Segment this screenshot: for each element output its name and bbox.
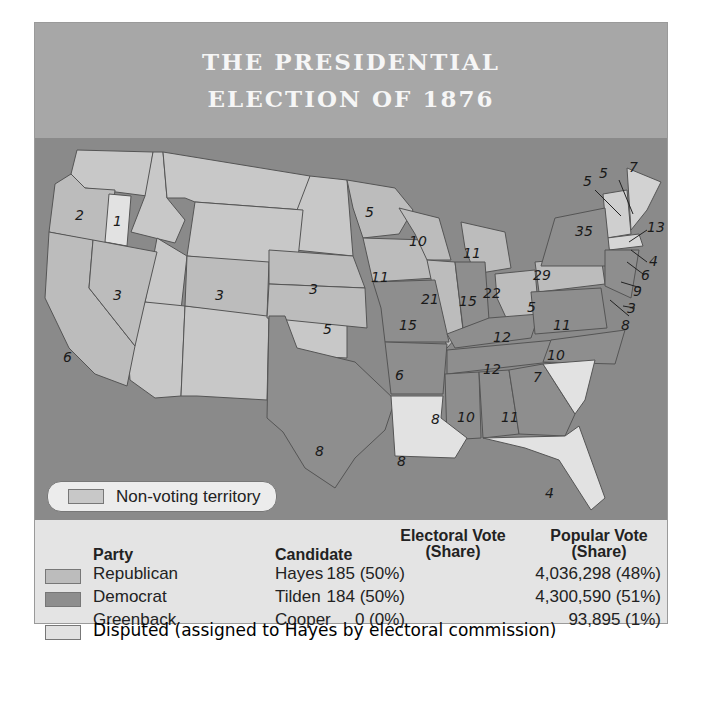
election-map-figure: THE PRESIDENTIAL ELECTION OF 1876 (34, 22, 668, 624)
non-voting-swatch (68, 489, 104, 504)
title-line-1: THE PRESIDENTIAL (35, 43, 667, 80)
svg-text:3: 3 (113, 287, 122, 303)
svg-text:12: 12 (483, 361, 501, 377)
header-pv-line2: (Share) (533, 544, 665, 560)
disputed-swatch (45, 625, 81, 640)
svg-text:8: 8 (397, 453, 406, 469)
svg-text:1: 1 (113, 213, 122, 229)
svg-text:15: 15 (459, 293, 477, 309)
svg-text:9: 9 (633, 283, 642, 299)
svg-text:10: 10 (409, 233, 427, 249)
svg-text:6: 6 (395, 367, 404, 383)
header-popular-vote: Popular Vote (Share) (533, 528, 665, 560)
florida (483, 426, 605, 510)
svg-text:5: 5 (599, 165, 608, 181)
legend-row-democrat: Democrat Tilden 184 (50%) 4,300,590 (51%… (35, 587, 667, 611)
svg-text:11: 11 (501, 409, 519, 425)
svg-text:13: 13 (647, 219, 665, 235)
svg-text:10: 10 (547, 347, 565, 363)
electoral-vote: 185 (50%) (327, 564, 405, 584)
svg-text:35: 35 (575, 223, 593, 239)
svg-text:11: 11 (553, 317, 571, 333)
title-line-2: ELECTION OF 1876 (35, 80, 667, 117)
us-map-svg: 2 1 6 3 3 3 5 5 11 10 21 11 15 22 15 12 … (35, 138, 667, 520)
legend-row-disputed: Disputed (assigned to Hayes by electoral… (35, 620, 667, 644)
svg-text:7: 7 (533, 369, 542, 385)
svg-text:5: 5 (583, 173, 592, 189)
party-name: Democrat (93, 587, 167, 607)
svg-text:6: 6 (63, 349, 72, 365)
colorado (185, 256, 269, 316)
svg-text:2: 2 (75, 207, 84, 223)
svg-text:10: 10 (457, 409, 475, 425)
svg-text:8: 8 (621, 317, 630, 333)
non-voting-territory-legend: Non-voting territory (47, 481, 277, 512)
svg-text:4: 4 (649, 253, 658, 269)
new-mexico-territory (181, 306, 269, 400)
svg-text:7: 7 (629, 159, 638, 175)
header-electoral-vote: Electoral Vote (Share) (383, 528, 523, 560)
header-party: Party (93, 546, 133, 564)
svg-text:4: 4 (545, 485, 554, 501)
svg-text:5: 5 (323, 321, 332, 337)
electoral-vote: 184 (50%) (327, 587, 405, 607)
party-name: Republican (93, 564, 178, 584)
header-ev-line2: (Share) (383, 544, 523, 560)
svg-text:21: 21 (421, 291, 439, 307)
header-pv-line1: Popular Vote (533, 528, 665, 544)
results-legend: Party Candidate Electoral Vote (Share) P… (35, 520, 667, 623)
svg-text:22: 22 (483, 285, 501, 301)
svg-text:29: 29 (533, 267, 551, 283)
svg-text:11: 11 (463, 245, 481, 261)
candidate-name: Hayes (275, 564, 323, 584)
svg-text:5: 5 (365, 204, 374, 220)
svg-text:8: 8 (431, 411, 440, 427)
svg-text:3: 3 (627, 300, 636, 316)
svg-text:15: 15 (399, 317, 417, 333)
candidate-name: Tilden (275, 587, 321, 607)
header-candidate: Candidate (275, 546, 352, 564)
svg-text:3: 3 (215, 287, 224, 303)
svg-text:8: 8 (315, 443, 324, 459)
democrat-swatch (45, 592, 81, 607)
header-ev-line1: Electoral Vote (383, 528, 523, 544)
svg-text:11: 11 (371, 269, 389, 285)
svg-text:6: 6 (641, 267, 650, 283)
popular-vote: 4,300,590 (51%) (535, 587, 661, 607)
montana-territory (163, 152, 310, 210)
disputed-label: Disputed (assigned to Hayes by electoral… (93, 620, 556, 640)
svg-text:3: 3 (309, 281, 318, 297)
svg-text:5: 5 (527, 299, 536, 315)
svg-text:12: 12 (493, 329, 511, 345)
us-map: 2 1 6 3 3 3 5 5 11 10 21 11 15 22 15 12 … (35, 138, 667, 520)
legend-row-republican: Republican Hayes 185 (50%) 4,036,298 (48… (35, 564, 667, 588)
popular-vote: 4,036,298 (48%) (535, 564, 661, 584)
map-title: THE PRESIDENTIAL ELECTION OF 1876 (35, 23, 667, 138)
non-voting-label: Non-voting territory (116, 487, 261, 507)
republican-swatch (45, 569, 81, 584)
